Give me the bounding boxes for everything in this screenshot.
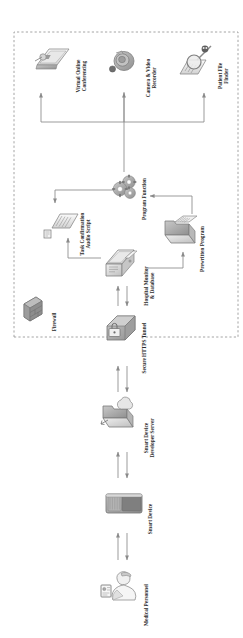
node-label-prewritten-program: Prewritten Program <box>199 225 205 271</box>
node-label-smart-device: Smart Device <box>147 503 153 534</box>
node-label-virtual-conferencing: Virtual OnlineConferencing <box>75 59 87 93</box>
diagram-canvas: Virtual OnlineConferencing Camera & Vide… <box>0 0 243 638</box>
smart-speaker-icon <box>106 494 142 513</box>
node-label-developer-server: Smart DeviceDeveloper Server <box>143 418 155 458</box>
node-label-firewall: Firewall <box>51 312 57 331</box>
node-label-medical-personnel: Medical Personnel <box>143 584 149 626</box>
node-label-https-tunnel: Secure HTTPS Tunnel <box>141 322 147 373</box>
node-label-program-function: Program Function <box>141 178 147 220</box>
